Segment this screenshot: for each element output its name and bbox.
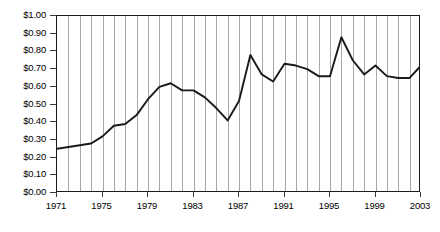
y-tick-label: $0.80 [23, 45, 46, 55]
y-tick-label: $0.40 [23, 116, 46, 126]
x-tick-label: 2003 [410, 201, 430, 211]
series-line-price [57, 37, 419, 149]
x-tick-mark [329, 192, 330, 197]
line-chart: $1.00$0.90$0.80$0.70$0.60$0.50$0.40$0.30… [0, 0, 440, 232]
x-tick-mark [375, 192, 376, 197]
x-tick-label: 1979 [137, 201, 157, 211]
x-tick-mark [193, 192, 194, 197]
x-tick-label: 1995 [319, 201, 339, 211]
plot-area [56, 15, 420, 192]
x-tick-label: 1987 [228, 201, 248, 211]
x-tick-label: 1991 [273, 201, 293, 211]
x-tick-mark [420, 192, 421, 197]
y-tick-label: $0.60 [23, 81, 46, 91]
x-tick-mark [56, 192, 57, 197]
y-tick-label: $0.50 [23, 99, 46, 109]
y-tick-label: $1.00 [23, 10, 46, 20]
x-tick-label: 1983 [182, 201, 202, 211]
x-axis: 197119751979198319871991199519992003 [0, 192, 440, 232]
x-tick-mark [238, 192, 239, 197]
x-tick-mark [147, 192, 148, 197]
x-tick-label: 1975 [91, 201, 111, 211]
x-tick-label: 1971 [46, 201, 66, 211]
y-tick-label: $0.20 [23, 152, 46, 162]
y-tick-label: $0.70 [23, 63, 46, 73]
x-tick-label: 1999 [364, 201, 384, 211]
x-tick-mark [284, 192, 285, 197]
y-tick-label: $0.90 [23, 28, 46, 38]
y-tick-label: $0.10 [23, 169, 46, 179]
series-line-svg [57, 16, 419, 191]
plot-clip [57, 16, 419, 191]
x-tick-mark [102, 192, 103, 197]
y-tick-label: $0.30 [23, 134, 46, 144]
